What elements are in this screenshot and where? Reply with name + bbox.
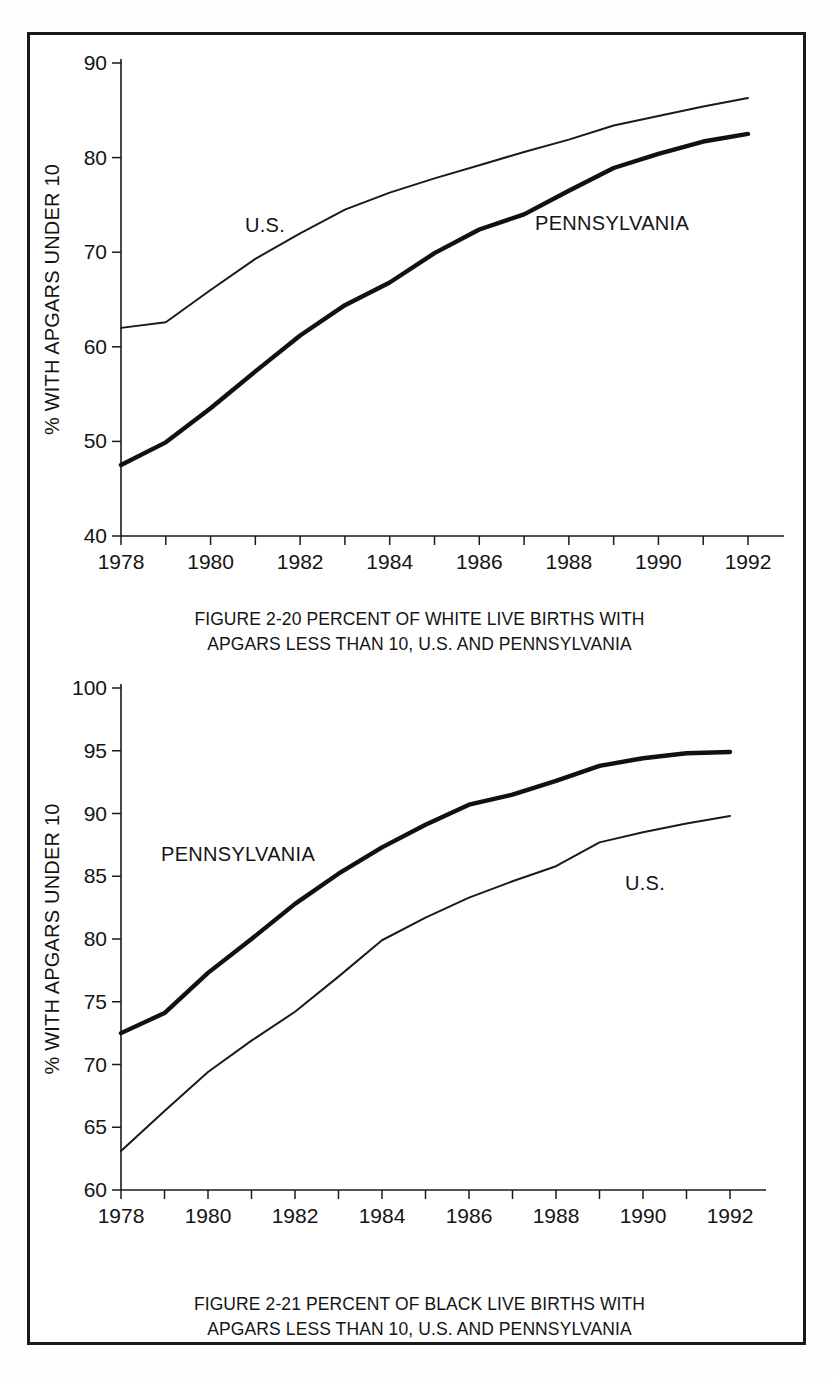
x-tick-label: 1982: [277, 550, 324, 573]
figure-2-21: 6065707580859095100197819801982198419861…: [30, 660, 809, 1342]
x-tick-label: 1986: [456, 550, 503, 573]
page-canvas: 4050607080901978198019821984198619881990…: [0, 0, 834, 1379]
y-tick-label: 85: [84, 864, 107, 887]
chart-black-live-births: 6065707580859095100197819801982198419861…: [30, 660, 809, 1290]
y-tick-label: 95: [84, 739, 107, 762]
series-line-u-s-: [121, 816, 730, 1151]
series-line-pennsylvania: [121, 134, 748, 465]
y-tick-label: 60: [84, 1178, 107, 1201]
y-tick-label: 100: [72, 676, 107, 699]
y-axis-label: % WITH APGARS UNDER 10: [41, 803, 63, 1074]
caption-line-2: APGARS LESS THAN 10, U.S. AND PENNSYLVAN…: [70, 632, 769, 657]
y-tick-label: 80: [84, 146, 107, 169]
y-tick-label: 75: [84, 990, 107, 1013]
x-tick-label: 1988: [545, 550, 592, 573]
x-tick-label: 1990: [620, 1204, 667, 1227]
figure-2-20-caption: FIGURE 2-20 PERCENT OF WHITE LIVE BIRTHS…: [30, 607, 809, 657]
x-tick-label: 1992: [707, 1204, 754, 1227]
series-annotation-us: U.S.: [625, 872, 665, 894]
x-tick-label: 1984: [366, 550, 413, 573]
x-tick-label: 1986: [446, 1204, 493, 1227]
y-tick-label: 80: [84, 927, 107, 950]
x-tick-label: 1988: [533, 1204, 580, 1227]
chart-white-live-births: 4050607080901978198019821984198619881990…: [30, 35, 809, 605]
x-tick-label: 1980: [187, 550, 234, 573]
y-tick-label: 90: [84, 802, 107, 825]
x-tick-label: 1982: [272, 1204, 319, 1227]
x-tick-label: 1978: [98, 550, 145, 573]
caption-line-1: FIGURE 2-20 PERCENT OF WHITE LIVE BIRTHS…: [70, 607, 769, 632]
series-annotation-us: U.S.: [245, 214, 285, 236]
x-tick-label: 1978: [98, 1204, 145, 1227]
x-tick-label: 1992: [725, 550, 772, 573]
y-axis-label: % WITH APGARS UNDER 10: [41, 164, 63, 435]
y-tick-label: 40: [84, 524, 107, 547]
y-tick-label: 50: [84, 429, 107, 452]
x-tick-label: 1990: [635, 550, 682, 573]
y-tick-label: 70: [84, 240, 107, 263]
y-tick-label: 65: [84, 1115, 107, 1138]
series-annotation-pa: PENNSYLVANIA: [161, 843, 315, 865]
y-tick-label: 60: [84, 335, 107, 358]
x-tick-label: 1980: [185, 1204, 232, 1227]
caption-line-1: FIGURE 2-21 PERCENT OF BLACK LIVE BIRTHS…: [70, 1292, 769, 1317]
caption-line-2: APGARS LESS THAN 10, U.S. AND PENNSYLVAN…: [70, 1317, 769, 1342]
x-tick-label: 1984: [359, 1204, 406, 1227]
figure-2-21-caption: FIGURE 2-21 PERCENT OF BLACK LIVE BIRTHS…: [30, 1292, 809, 1342]
y-tick-label: 90: [84, 51, 107, 74]
y-tick-label: 70: [84, 1053, 107, 1076]
figure-2-20: 4050607080901978198019821984198619881990…: [30, 35, 809, 657]
series-annotation-pa: PENNSYLVANIA: [535, 212, 689, 234]
figure-page-border: 4050607080901978198019821984198619881990…: [27, 32, 806, 1345]
